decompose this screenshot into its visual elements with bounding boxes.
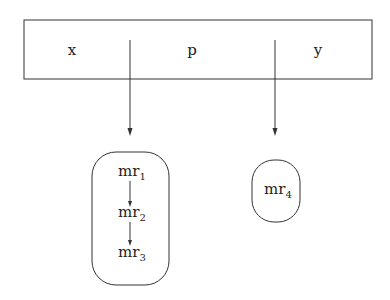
region-label-mr3: mr3 [118,245,146,263]
field-label-p: p [187,43,197,58]
region-base: mr [118,162,139,180]
region-subscript: 1 [140,171,146,182]
pointer-arrow-y [273,40,278,136]
region-label-mr1: mr1 [118,164,146,182]
pointer-arrow-p [128,40,133,136]
field-label-y: y [314,43,322,58]
region-subscript: 2 [140,212,146,223]
region-subscript: 3 [140,252,146,263]
region-label-mr4: mr4 [264,182,292,200]
region-base: mr [118,203,139,221]
region-base: mr [264,180,285,198]
region-base: mr [118,243,139,261]
field-label-x: x [68,43,76,58]
region-label-mr2: mr2 [118,205,146,223]
region-subscript: 4 [286,189,292,200]
